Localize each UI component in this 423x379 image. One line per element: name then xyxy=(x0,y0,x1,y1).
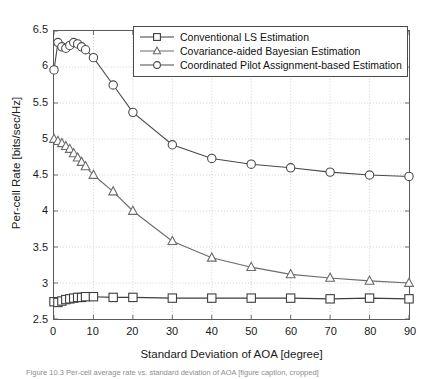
legend-label: Coordinated Pilot Assignment-based Estim… xyxy=(180,59,402,71)
series-1 xyxy=(50,134,414,286)
x-tick-label: 20 xyxy=(112,326,152,337)
x-tick-label: 60 xyxy=(271,326,311,337)
x-tick-label: 40 xyxy=(192,326,232,337)
chart-legend: Conventional LS EstimationCovariance-aid… xyxy=(133,26,408,77)
y-tick-label: 4.5 xyxy=(33,169,48,180)
x-tick-label: 0 xyxy=(33,326,73,337)
legend-label: Covariance-aided Bayesian Estimation xyxy=(180,45,360,57)
y-tick-label: 5.5 xyxy=(33,97,48,108)
y-tick-label: 5 xyxy=(42,133,48,144)
x-tick-label: 30 xyxy=(152,326,192,337)
x-tick-label: 80 xyxy=(350,326,390,337)
y-tick-label: 2.5 xyxy=(33,314,48,325)
y-tick-label: 3.5 xyxy=(33,242,48,253)
figure-caption: Figure 10.3 Per-cell average rate vs. st… xyxy=(26,368,406,377)
y-tick-label: 4 xyxy=(42,205,48,216)
y-tick-label: 6.5 xyxy=(33,24,48,35)
x-tick-label: 70 xyxy=(311,326,351,337)
figure-container: Per-cell Rate [bits/sec/Hz] 2.533.544.55… xyxy=(0,0,423,379)
y-axis-label: Per-cell Rate [bits/sec/Hz] xyxy=(10,63,22,263)
legend-entry: Conventional LS Estimation xyxy=(139,30,402,44)
x-tick-label: 50 xyxy=(231,326,271,337)
y-tick-label: 3 xyxy=(42,278,48,289)
legend-label: Conventional LS Estimation xyxy=(180,31,309,43)
legend-entry: Coordinated Pilot Assignment-based Estim… xyxy=(139,58,402,72)
x-tick-label: 10 xyxy=(73,326,113,337)
legend-entry: Covariance-aided Bayesian Estimation xyxy=(139,44,402,58)
legend-marker-circle-icon xyxy=(139,58,175,72)
legend-marker-triangle-icon xyxy=(139,44,175,58)
legend-marker-square-icon xyxy=(139,30,175,44)
x-axis-label: Standard Deviation of AOA [degree] xyxy=(53,348,410,360)
x-tick-label: 90 xyxy=(390,326,423,337)
series-2 xyxy=(50,293,413,307)
y-tick-label: 6 xyxy=(42,60,48,71)
